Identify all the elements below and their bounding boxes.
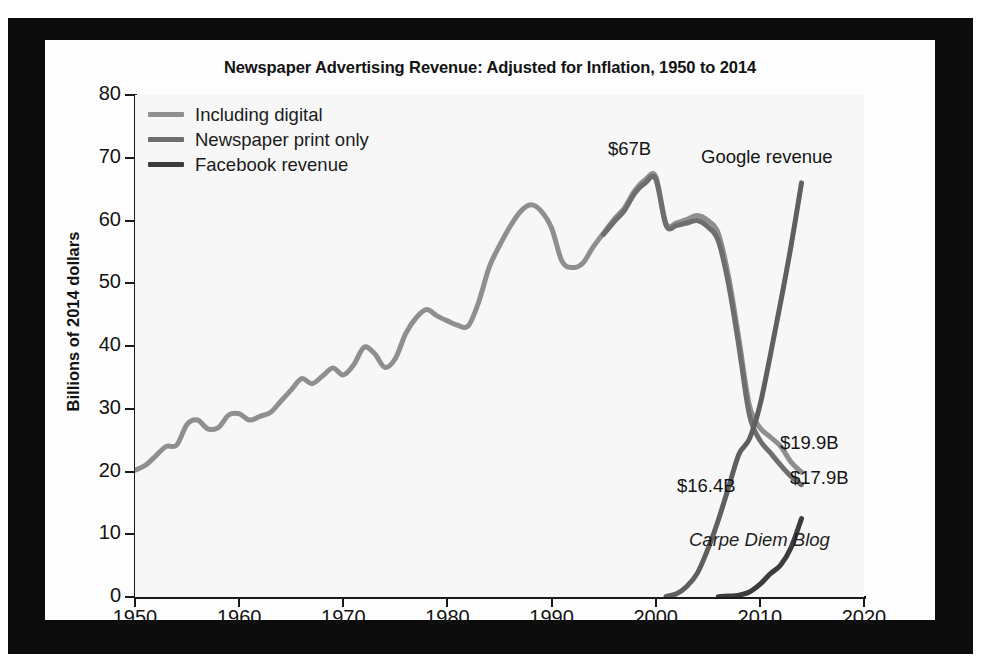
x-tick-label-1950: 1950	[90, 606, 180, 629]
x-tick-label-2020: 2020	[819, 606, 909, 629]
x-tick-label-1990: 1990	[507, 606, 597, 629]
chart-legend: Including digital Newspaper print only F…	[148, 102, 398, 177]
legend-item-including-digital[interactable]: Including digital	[148, 102, 398, 127]
annotation-including-digital-value: $19.9B	[780, 432, 839, 454]
legend-label-newspaper-print-only: Newspaper print only	[195, 129, 369, 151]
x-tick-label-2000: 2000	[611, 606, 701, 629]
x-tick-label-2010: 2010	[715, 606, 805, 629]
y-tick-label-0: 0	[61, 584, 121, 607]
y-tick-label-40: 40	[61, 333, 121, 356]
photo-frame: Newspaper Advertising Revenue: Adjusted …	[0, 0, 981, 660]
y-tick-label-60: 60	[61, 208, 121, 231]
x-tick-label-1960: 1960	[194, 606, 284, 629]
series-line-including-digital	[135, 174, 802, 473]
chart-title: Newspaper Advertising Revenue: Adjusted …	[45, 58, 935, 77]
legend-swatch-including-digital	[148, 112, 184, 117]
legend-item-newspaper-print-only[interactable]: Newspaper print only	[148, 127, 398, 152]
annotation-print-only-value: $17.9B	[790, 467, 849, 489]
annotation-facebook-value: $16.4B	[677, 475, 736, 497]
legend-swatch-newspaper-print-only	[148, 137, 184, 142]
y-tick-label-20: 20	[61, 459, 121, 482]
legend-item-facebook-revenue[interactable]: Facebook revenue	[148, 152, 398, 177]
y-tick-label-10: 10	[61, 521, 121, 544]
y-tick-label-50: 50	[61, 270, 121, 293]
x-tick-label-1980: 1980	[402, 606, 492, 629]
y-tick-label-80: 80	[61, 82, 121, 105]
legend-swatch-facebook-revenue	[148, 162, 184, 167]
annotation-peak-value: $67B	[608, 138, 651, 160]
annotation-google-revenue: Google revenue	[701, 146, 833, 168]
x-tick-label-1970: 1970	[298, 606, 388, 629]
watermark-carpe-diem-blog: Carpe Diem Blog	[689, 529, 830, 551]
chart-page: Newspaper Advertising Revenue: Adjusted …	[45, 40, 935, 620]
legend-label-facebook-revenue: Facebook revenue	[195, 154, 348, 176]
y-tick-label-30: 30	[61, 396, 121, 419]
legend-label-including-digital: Including digital	[195, 104, 323, 126]
y-tick-label-70: 70	[61, 145, 121, 168]
